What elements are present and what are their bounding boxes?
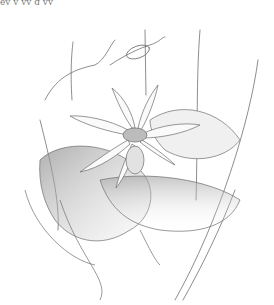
botanical-drawing	[0, 0, 274, 305]
